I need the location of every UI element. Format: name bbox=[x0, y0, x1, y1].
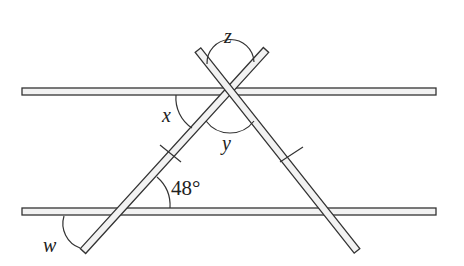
bottom-parallel-bar bbox=[22, 208, 436, 215]
left-stick bbox=[80, 47, 268, 253]
label-w: w bbox=[43, 234, 57, 256]
geometry-diagram: z x y 48° w bbox=[0, 0, 464, 266]
right-stick bbox=[195, 48, 360, 253]
label-x: x bbox=[161, 104, 171, 126]
angle-arc-w bbox=[63, 216, 80, 248]
label-y: y bbox=[220, 132, 231, 155]
angle-arc-48 bbox=[157, 177, 170, 208]
label-48-degrees: 48° bbox=[171, 176, 200, 200]
label-z: z bbox=[223, 25, 232, 47]
angle-arc-x bbox=[176, 95, 192, 128]
